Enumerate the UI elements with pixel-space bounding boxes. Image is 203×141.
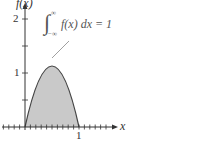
x-axis-label: x (120, 119, 125, 134)
y-tick-label-1: 1 (14, 66, 20, 78)
integral-lower-limit: −∞ (48, 30, 57, 38)
annotation-leader-line (52, 41, 69, 58)
y-tick-label-2: 2 (13, 12, 19, 24)
y-axis-label: f(x) (16, 0, 33, 11)
x-axis-arrow-icon (112, 125, 118, 130)
integral-upper-limit: ∞ (51, 9, 56, 17)
x-tick-label-1: 1 (76, 129, 82, 141)
integral-expression: f(x) dx = 1 (61, 17, 112, 32)
